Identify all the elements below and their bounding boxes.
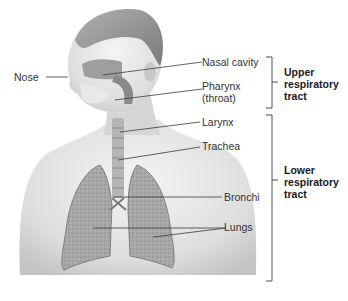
group-upper-line1: Upper bbox=[284, 66, 314, 78]
trachea-illustration bbox=[112, 118, 124, 198]
label-nose: Nose bbox=[14, 71, 39, 83]
group-lower-line1: Lower bbox=[284, 164, 315, 176]
label-nasal-cavity: Nasal cavity bbox=[202, 56, 259, 68]
label-trachea: Trachea bbox=[202, 140, 240, 152]
label-pharynx-sub: (throat) bbox=[202, 92, 236, 104]
label-pharynx: Pharynx bbox=[202, 80, 241, 92]
anatomy-illustration bbox=[0, 0, 348, 301]
group-lower-line2: respiratory bbox=[284, 176, 339, 188]
group-brackets bbox=[266, 57, 278, 281]
respiratory-diagram: Nose Nasal cavity Pharynx (throat) Laryn… bbox=[0, 0, 348, 301]
label-bronchi: Bronchi bbox=[224, 191, 260, 203]
group-upper-line3: tract bbox=[284, 90, 307, 102]
group-lower-line3: tract bbox=[284, 188, 307, 200]
label-lungs: Lungs bbox=[224, 221, 253, 233]
label-larynx: Larynx bbox=[202, 116, 234, 128]
group-upper-line2: respiratory bbox=[284, 78, 339, 90]
